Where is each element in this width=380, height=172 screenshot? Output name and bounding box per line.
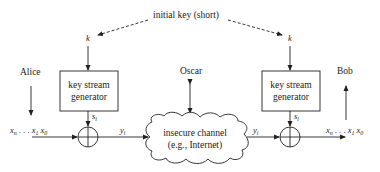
keystream-symbol-left: si [92, 111, 97, 122]
key-symbol-left: k [86, 33, 90, 43]
ciphertext-symbol-left: yi [120, 125, 125, 136]
keystream-generator-left-label: key stream generator [60, 79, 118, 103]
generator-left-line2: generator [60, 91, 118, 103]
key-dashed-arrow-left [98, 20, 148, 35]
bob-label: Bob [337, 66, 353, 76]
initial-key-label: initial key (short) [153, 10, 219, 20]
channel-line1: insecure channel [145, 127, 245, 139]
keystream-generator-right-label: key stream generator [262, 79, 320, 103]
plaintext-right-label: xn . . . x1 x0 [326, 125, 363, 136]
insecure-channel-label: insecure channel (e.g., Internet) [145, 127, 245, 151]
key-dashed-arrow-right [228, 20, 282, 35]
alice-label: Alice [20, 67, 41, 77]
keystream-symbol-right: si [294, 111, 299, 122]
generator-right-line1: key stream [262, 79, 320, 91]
xor-icon-right [280, 127, 300, 147]
oscar-label: Oscar [180, 66, 202, 76]
key-symbol-right: k [288, 33, 292, 43]
channel-line2: (e.g., Internet) [145, 139, 245, 151]
ciphertext-symbol-right: yi [253, 125, 258, 136]
plaintext-left-label: xn . . . x1 x0 [10, 125, 47, 136]
xor-icon-left [78, 127, 98, 147]
generator-right-line2: generator [262, 91, 320, 103]
stream-cipher-diagram: initial key (short) k k Alice Oscar Bob … [0, 0, 380, 172]
generator-left-line1: key stream [60, 79, 118, 91]
